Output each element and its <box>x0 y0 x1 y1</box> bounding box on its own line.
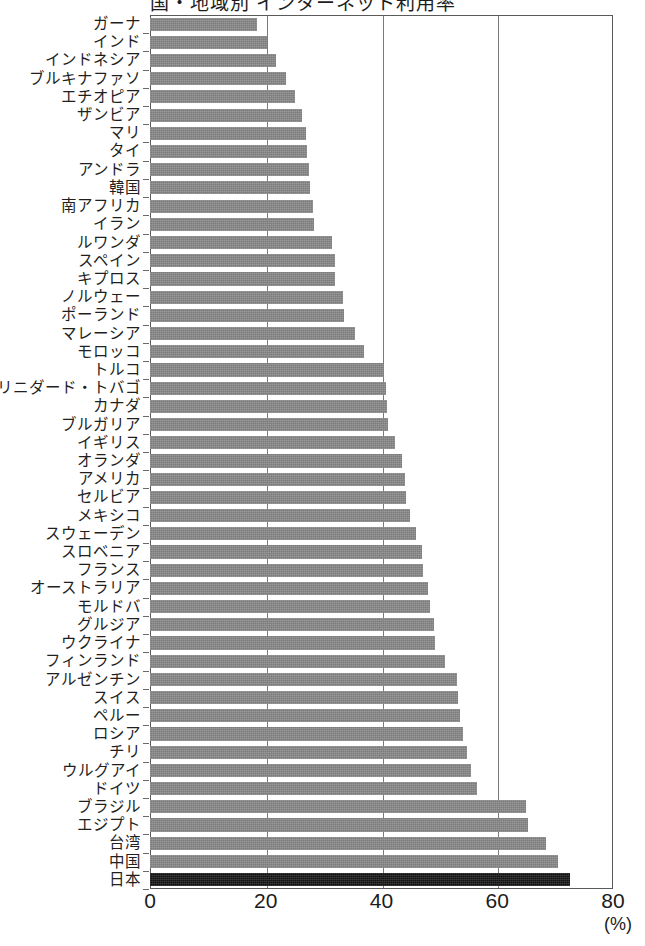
bar[interactable] <box>150 181 310 194</box>
bar[interactable] <box>150 236 332 249</box>
bar-row[interactable] <box>150 725 613 743</box>
bar[interactable] <box>150 837 546 850</box>
bar[interactable] <box>150 54 276 67</box>
bar-row[interactable] <box>150 543 613 561</box>
bar[interactable] <box>150 272 335 285</box>
bar[interactable] <box>150 90 295 103</box>
bar[interactable] <box>150 218 314 231</box>
bar-row[interactable] <box>150 798 613 816</box>
bar-row[interactable] <box>150 652 613 670</box>
bar[interactable] <box>150 509 410 522</box>
bar-row[interactable] <box>150 488 613 506</box>
bar[interactable] <box>150 363 384 376</box>
bar-row[interactable] <box>150 834 613 852</box>
bar-row[interactable] <box>150 161 613 179</box>
bar-row[interactable] <box>150 51 613 69</box>
bar-row[interactable] <box>150 215 613 233</box>
bar-row[interactable] <box>150 124 613 142</box>
bar[interactable] <box>150 655 445 668</box>
bar[interactable] <box>150 400 387 413</box>
bar-row[interactable] <box>150 88 613 106</box>
bar[interactable] <box>150 145 307 158</box>
bar[interactable] <box>150 291 343 304</box>
bar[interactable] <box>150 873 570 886</box>
bar[interactable] <box>150 72 286 85</box>
bar-row[interactable] <box>150 780 613 798</box>
bar[interactable] <box>150 582 428 595</box>
bar-row[interactable] <box>150 15 613 33</box>
bar-row[interactable] <box>150 343 613 361</box>
bar[interactable] <box>150 345 364 358</box>
bar[interactable] <box>150 436 395 449</box>
bar-row[interactable] <box>150 142 613 160</box>
bar[interactable] <box>150 545 422 558</box>
bar[interactable] <box>150 309 344 322</box>
category-tick <box>143 743 149 744</box>
bar-row[interactable] <box>150 470 613 488</box>
bar-row[interactable] <box>150 452 613 470</box>
bar[interactable] <box>150 527 416 540</box>
bar-row[interactable] <box>150 816 613 834</box>
bar[interactable] <box>150 800 526 813</box>
bar[interactable] <box>150 636 435 649</box>
bar-row[interactable] <box>150 871 613 889</box>
bar-row[interactable] <box>150 598 613 616</box>
bar-row[interactable] <box>150 288 613 306</box>
bar-row[interactable] <box>150 525 613 543</box>
bar[interactable] <box>150 855 558 868</box>
bar-row[interactable] <box>150 670 613 688</box>
bar-row[interactable] <box>150 233 613 251</box>
bar-row[interactable] <box>150 506 613 524</box>
bar-row[interactable] <box>150 561 613 579</box>
bar-row[interactable] <box>150 33 613 51</box>
bar[interactable] <box>150 127 306 140</box>
bar[interactable] <box>150 163 309 176</box>
bar-row[interactable] <box>150 616 613 634</box>
bar-row[interactable] <box>150 579 613 597</box>
bar[interactable] <box>150 254 335 267</box>
bar[interactable] <box>150 709 460 722</box>
bar-row[interactable] <box>150 397 613 415</box>
bar-row[interactable] <box>150 197 613 215</box>
bar-row[interactable] <box>150 852 613 870</box>
bar[interactable] <box>150 109 302 122</box>
bar-row[interactable] <box>150 434 613 452</box>
bar-row[interactable] <box>150 707 613 725</box>
bar[interactable] <box>150 782 477 795</box>
bar[interactable] <box>150 618 434 631</box>
category-label: イラン <box>93 215 141 233</box>
bar-row[interactable] <box>150 379 613 397</box>
bar-row[interactable] <box>150 306 613 324</box>
bar-row[interactable] <box>150 743 613 761</box>
bar[interactable] <box>150 746 467 759</box>
bar-row[interactable] <box>150 361 613 379</box>
bar[interactable] <box>150 473 405 486</box>
bar-row[interactable] <box>150 324 613 342</box>
bar[interactable] <box>150 673 457 686</box>
bar[interactable] <box>150 200 313 213</box>
bar-row[interactable] <box>150 689 613 707</box>
bar[interactable] <box>150 564 423 577</box>
bar[interactable] <box>150 727 463 740</box>
bar-row[interactable] <box>150 70 613 88</box>
bar-row[interactable] <box>150 252 613 270</box>
bar-row[interactable] <box>150 761 613 779</box>
bar[interactable] <box>150 18 257 31</box>
bar-row[interactable] <box>150 179 613 197</box>
bar-row[interactable] <box>150 106 613 124</box>
bar[interactable] <box>150 818 528 831</box>
category-tick <box>143 416 149 417</box>
bar-row[interactable] <box>150 270 613 288</box>
bar[interactable] <box>150 418 388 431</box>
category-tick <box>143 853 149 854</box>
bar[interactable] <box>150 36 267 49</box>
bar[interactable] <box>150 454 402 467</box>
bar[interactable] <box>150 327 355 340</box>
bar[interactable] <box>150 491 406 504</box>
bar[interactable] <box>150 691 458 704</box>
bar-row[interactable] <box>150 634 613 652</box>
bar[interactable] <box>150 600 430 613</box>
bar-row[interactable] <box>150 415 613 433</box>
bar[interactable] <box>150 764 471 777</box>
bar[interactable] <box>150 382 386 395</box>
